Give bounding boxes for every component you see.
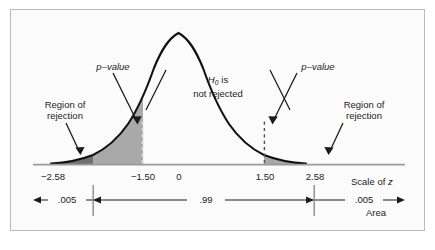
area-label-right-tail: .005 (345, 194, 383, 205)
h0-symbol: H (208, 74, 215, 85)
h0-not-rejected-text: not rejected (193, 88, 243, 99)
axis-title-area: Area (366, 207, 422, 218)
leader-arrow-region-left (66, 123, 85, 155)
scale-of-text: Scale of (351, 176, 388, 187)
z-variable: z (388, 176, 393, 187)
p-value-text-left: p–value (96, 61, 129, 72)
tick-label-neg-2-58: −2.58 (33, 171, 73, 182)
area-label-left-tail: .005 (48, 194, 86, 205)
label-region-of-rejection-left: Region of rejection (34, 99, 96, 121)
label-h0-not-rejected: H0 isnot rejected (172, 74, 264, 99)
figure-panel: p–value p–value H0 isnot rejected Region… (10, 9, 425, 231)
axis-title-scale-of-z: Scale of z (351, 176, 423, 187)
area-label-center: .99 (187, 194, 225, 205)
label-p-value-left: p–value (87, 61, 139, 72)
tick-label-zero: 0 (159, 171, 199, 182)
tick-label-neg-1-50: −1.50 (123, 171, 163, 182)
tick-label-pos-2-58: 2.58 (295, 171, 335, 182)
leader-arrow-p-value-right (268, 73, 297, 125)
leader-arrow-p-value-left (113, 73, 142, 125)
label-region-of-rejection-right: Region of rejection (333, 99, 395, 121)
leader-arrow-region-right (324, 123, 343, 155)
label-p-value-right: p–value (292, 61, 344, 72)
p-value-text-right: p–value (301, 61, 334, 72)
tick-label-pos-1-50: 1.50 (245, 171, 285, 182)
h0-is-text: is (219, 74, 229, 85)
